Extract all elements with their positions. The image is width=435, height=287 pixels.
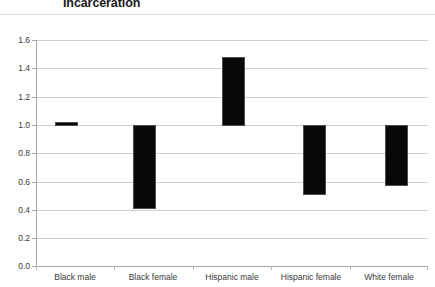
gridline-0.2: [36, 238, 428, 239]
title-divider: [0, 14, 435, 15]
y-tick-mark-1.4: [32, 68, 36, 69]
chart-title: Incarceration: [63, 0, 140, 10]
gridline-0.6: [36, 182, 428, 183]
x-tick-mark-0: [36, 266, 37, 270]
y-axis-label-0.4: 0.4: [0, 205, 30, 215]
x-axis-label-black-male: Black male: [54, 272, 96, 282]
y-tick-mark-0.8: [32, 153, 36, 154]
x-axis-label-black-female: Black female: [129, 272, 178, 282]
bar-white-female: [385, 125, 408, 186]
y-axis-label-0.0: 0.0: [0, 261, 30, 271]
y-tick-mark-1.2: [32, 97, 36, 98]
y-axis-label-0.2: 0.2: [0, 233, 30, 243]
x-axis-line: [36, 266, 428, 267]
y-axis-label-1.4: 1.4: [0, 63, 30, 73]
x-tick-mark-5: [427, 266, 428, 270]
y-axis-line: [36, 40, 37, 267]
x-tick-mark-3: [271, 266, 272, 270]
y-tick-mark-0.2: [32, 238, 36, 239]
y-tick-mark-0.6: [32, 182, 36, 183]
x-axis-label-white-female: White female: [364, 272, 414, 282]
bar-black-female: [133, 125, 156, 209]
y-tick-mark-1.6: [32, 40, 36, 41]
y-tick-mark-1.0: [32, 125, 36, 126]
y-axis-label-1.2: 1.2: [0, 92, 30, 102]
y-tick-mark-0.4: [32, 210, 36, 211]
x-tick-mark-2: [193, 266, 194, 270]
y-axis-label-1.6: 1.6: [0, 35, 30, 45]
y-axis-label-0.8: 0.8: [0, 148, 30, 158]
plot-area: 1.6 1.4 1.2 1.0 0.8 0.6 0.4 0.2 0.0 Blac…: [36, 40, 428, 267]
incarceration-chart: Incarceration 1.6 1.4 1.2 1.0 0.8 0.6 0.…: [0, 0, 435, 287]
y-axis-label-0.6: 0.6: [0, 177, 30, 187]
bar-hispanic-male: [222, 57, 245, 126]
x-tick-mark-4: [350, 266, 351, 270]
x-axis-label-hispanic-female: Hispanic female: [281, 272, 341, 282]
gridline-1.6: [36, 40, 428, 41]
bar-hispanic-female: [303, 125, 326, 195]
gridline-0.4: [36, 210, 428, 211]
x-axis-label-hispanic-male: Hispanic male: [205, 272, 258, 282]
gridline-0.8: [36, 153, 428, 154]
y-axis-label-1.0: 1.0: [0, 120, 30, 130]
x-tick-mark-1: [114, 266, 115, 270]
bar-black-male: [55, 122, 78, 126]
